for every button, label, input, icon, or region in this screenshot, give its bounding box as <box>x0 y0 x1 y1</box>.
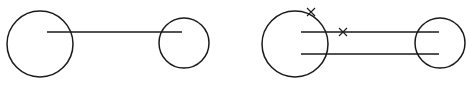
small-circle <box>415 18 465 68</box>
diagram-canvas <box>0 0 469 89</box>
double-line-figure <box>262 8 465 77</box>
large-circle <box>7 11 73 77</box>
single-line-figure <box>7 11 209 77</box>
small-circle <box>159 18 209 68</box>
large-circle <box>262 11 328 77</box>
